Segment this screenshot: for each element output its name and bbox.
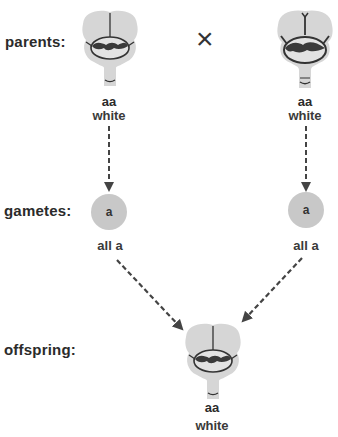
flower-icon-offspring <box>181 321 245 403</box>
offspring-genotype: aa <box>182 400 242 415</box>
gamete-left: a <box>91 194 127 230</box>
gamete-left-note-prefix: all <box>97 238 115 253</box>
gamete-right-note-prefix: all <box>293 238 311 253</box>
dashed-arrow-left-diagonal <box>117 260 182 329</box>
gamete-right-allele: a <box>303 203 310 217</box>
gamete-left-note-allele: a <box>115 238 122 253</box>
gamete-right: a <box>288 192 324 228</box>
arrows-layer <box>0 0 338 437</box>
gamete-left-allele: a <box>106 205 113 219</box>
gamete-left-note: all a <box>80 238 140 253</box>
dashed-arrow-right-diagonal <box>243 258 302 321</box>
offspring-phenotype: white <box>182 418 242 433</box>
gamete-right-note: all a <box>276 238 336 253</box>
gamete-right-note-allele: a <box>311 238 318 253</box>
